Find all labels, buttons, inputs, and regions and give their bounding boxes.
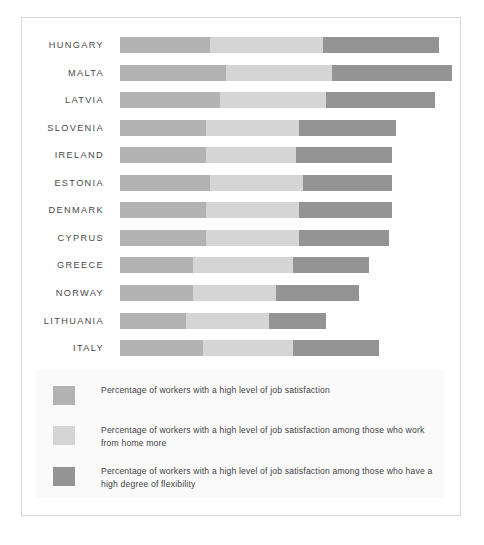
bar-category-label: MALTA	[22, 65, 104, 81]
bar-segment-high_flexibility	[299, 202, 392, 218]
bar-row: ITALY	[22, 340, 460, 356]
bar-segment-base	[120, 175, 210, 191]
bar-category-label: CYPRUS	[22, 230, 104, 246]
bar-track	[120, 230, 460, 246]
bar-row: LITHUANIA	[22, 313, 460, 329]
bar-row: SLOVENIA	[22, 120, 460, 136]
bar-category-label: DENMARK	[22, 202, 104, 218]
bar-segment-base	[120, 92, 220, 108]
bar-segment-work_from_home	[210, 175, 303, 191]
bar-segment-high_flexibility	[303, 175, 393, 191]
bar-category-label: ESTONIA	[22, 175, 104, 191]
bar-track	[120, 175, 460, 191]
bar-segment-high_flexibility	[299, 230, 389, 246]
bar-segment-high_flexibility	[296, 147, 392, 163]
bar-segment-high_flexibility	[323, 37, 439, 53]
bar-category-label: ITALY	[22, 340, 104, 356]
legend-label: Percentage of workers with a high level …	[101, 465, 439, 491]
bar-segment-base	[120, 120, 206, 136]
bar-category-label: HUNGARY	[22, 37, 104, 53]
bar-segment-base	[120, 230, 206, 246]
bar-segment-high_flexibility	[276, 285, 359, 301]
bar-segment-work_from_home	[226, 65, 332, 81]
bar-track	[120, 65, 460, 81]
bar-segment-base	[120, 147, 206, 163]
bar-segment-high_flexibility	[326, 92, 436, 108]
bar-row: NORWAY	[22, 285, 460, 301]
bar-segment-high_flexibility	[293, 257, 369, 273]
bar-row: GREECE	[22, 257, 460, 273]
bar-category-label: GREECE	[22, 257, 104, 273]
bar-segment-work_from_home	[210, 37, 323, 53]
bar-segment-work_from_home	[203, 340, 293, 356]
bar-category-label: LITHUANIA	[22, 313, 104, 329]
bar-segment-high_flexibility	[299, 120, 395, 136]
bar-row: ESTONIA	[22, 175, 460, 191]
bar-track	[120, 92, 460, 108]
bar-track	[120, 37, 460, 53]
legend-swatch-icon	[53, 467, 75, 486]
bar-category-label: SLOVENIA	[22, 120, 104, 136]
bar-row: MALTA	[22, 65, 460, 81]
bar-segment-work_from_home	[206, 147, 296, 163]
bar-track	[120, 285, 460, 301]
bar-segment-base	[120, 37, 210, 53]
bar-segment-base	[120, 257, 193, 273]
bar-segment-work_from_home	[186, 313, 269, 329]
legend-label: Percentage of workers with a high level …	[101, 424, 439, 450]
chart-legend: Percentage of workers with a high level …	[35, 370, 445, 498]
bar-segment-work_from_home	[206, 202, 299, 218]
bar-segment-base	[120, 313, 186, 329]
bar-row: DENMARK	[22, 202, 460, 218]
bar-segment-high_flexibility	[269, 313, 325, 329]
bar-track	[120, 202, 460, 218]
bar-row: IRELAND	[22, 147, 460, 163]
legend-label: Percentage of workers with a high level …	[101, 384, 439, 397]
bar-segment-high_flexibility	[332, 65, 452, 81]
bar-segment-base	[120, 340, 203, 356]
bar-track	[120, 120, 460, 136]
bar-track	[120, 313, 460, 329]
bar-category-label: IRELAND	[22, 147, 104, 163]
bar-segment-work_from_home	[206, 230, 299, 246]
bar-segment-base	[120, 285, 193, 301]
bar-row: HUNGARY	[22, 37, 460, 53]
stacked-bar-chart: HUNGARYMALTALATVIASLOVENIAIRELANDESTONIA…	[22, 18, 460, 363]
bar-track	[120, 340, 460, 356]
legend-swatch-icon	[53, 426, 75, 445]
legend-swatch-icon	[53, 386, 75, 405]
bar-category-label: NORWAY	[22, 285, 104, 301]
bar-row: CYPRUS	[22, 230, 460, 246]
bar-row: LATVIA	[22, 92, 460, 108]
bar-segment-base	[120, 65, 226, 81]
bar-segment-work_from_home	[193, 257, 293, 273]
bar-track	[120, 147, 460, 163]
bar-segment-high_flexibility	[293, 340, 379, 356]
bar-segment-work_from_home	[193, 285, 276, 301]
bar-category-label: LATVIA	[22, 92, 104, 108]
bar-segment-work_from_home	[206, 120, 299, 136]
bar-track	[120, 257, 460, 273]
chart-figure-frame: HUNGARYMALTALATVIASLOVENIAIRELANDESTONIA…	[21, 17, 461, 516]
bar-segment-base	[120, 202, 206, 218]
bar-segment-work_from_home	[220, 92, 326, 108]
